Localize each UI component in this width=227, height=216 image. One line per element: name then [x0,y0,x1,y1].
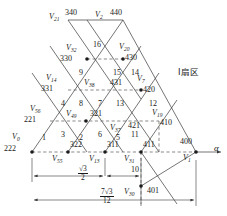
vertex-sub-V0: 0 [17,136,20,142]
vertex-name-V1: V1 [183,154,191,162]
vertex-name-V21: V21 [49,13,59,21]
triangle-label-8: 8 [79,100,83,108]
vertex-sub-V14: 14 [51,77,57,83]
dimension-seven-root3-denominator: 12 [100,197,114,205]
vertex-name-V49: V49 [66,110,76,118]
triangle-label-13: 13 [116,100,124,108]
triangle-label-14: 14 [131,69,139,77]
vertex-code-V37: 421 [128,122,140,130]
alpha-axis-label: α [214,144,219,153]
vertex-name-V2: V2 [95,11,103,19]
triangle-label-4: 4 [61,100,65,108]
vertex-code-V56: 221 [24,116,36,124]
vertex-sub-V7: 7 [142,78,145,84]
vertex-name-V19: V19 [152,109,162,117]
vertex-name-V38: V38 [84,79,94,87]
triangle-label-6: 6 [98,131,102,139]
vertex-sub-V32: 32 [71,47,77,53]
vertex-code-V0: 222 [4,145,16,153]
vertex-code-V14: 331 [41,85,53,93]
vertex-code-V20: 430 [125,54,137,62]
vertex-sub-V49: 49 [71,113,77,119]
vertex-code-V49: 321 [90,110,102,118]
vertex-sub-V2: 2 [100,14,103,20]
triangle-label-16: 16 [93,41,101,49]
vertex-sub-V21: 21 [54,16,60,22]
vertex-sub-V20: 20 [124,46,130,52]
space-vector-diagram: V0 222 V55 322 V13 311 V31 411 V1 400 V5… [0,0,227,216]
vertex-sub-V19: 19 [157,112,163,118]
triangle-label-5: 5 [116,134,120,142]
vertex-code-V1: 400 [180,138,192,146]
vertex-sub-V56: 56 [35,108,41,114]
vertex-name-V32: V32 [66,44,76,52]
dimension-lines [32,158,196,206]
vertex-code-V32: 330 [60,55,72,63]
triangle-label-15: 15 [113,69,121,77]
vertex-name-V55: V55 [52,155,62,163]
vertex-code-V21: 340 [65,9,77,17]
vertex-name-V37: V37 [110,124,120,132]
vertex-name-V20: V20 [119,43,129,51]
triangle-label-11: 11 [131,131,139,139]
vertex-name-V31: V31 [124,155,134,163]
vertex-code-V31: 411 [143,141,155,149]
triangle-label-7: 7 [98,100,102,108]
vertex-sub-V31: 31 [129,158,135,164]
vertex-code-V2: 440 [110,9,122,17]
vertex-code-V38: 431 [110,79,122,87]
vertex-name-V56: V56 [30,105,40,113]
vertex-sub-V1: 1 [188,157,191,163]
sector-label: I扇区 [178,68,199,77]
vertex-name-V14: V14 [46,74,56,82]
dimension-half-root3-denominator: 2 [78,174,88,182]
vertex-sub-V37: 37 [115,127,121,133]
vertex-code-V7: 420 [143,86,155,94]
dimension-half-root3: √3 2 [78,165,88,183]
vertex-name-V0: V0 [12,133,20,141]
vertex-code-V30: 401 [147,187,159,195]
vertex-name-V13: V13 [89,155,99,163]
triangle-label-12: 12 [149,100,157,108]
triangle-label-9: 9 [79,69,83,77]
triangle-label-2: 2 [79,134,83,142]
dimension-seven-root3-over-12: 7√3 12 [100,188,114,206]
vertex-name-V30: V30 [124,188,134,196]
vertex-sub-V30: 30 [129,191,135,197]
triangle-label-1: 1 [42,134,46,142]
vertex-sub-V55: 55 [57,158,63,164]
vertex-code-V19: 410 [160,119,172,127]
triangle-label-3: 3 [61,131,65,139]
vertex-code-V13: 311 [107,141,119,149]
vertex-sub-V13: 13 [94,158,100,164]
vertex-code-V55: 322 [70,141,82,149]
lattice-solid-lines [32,20,196,204]
triangle-label-10: 10 [131,166,139,174]
vertex-sub-V38: 38 [89,82,95,88]
